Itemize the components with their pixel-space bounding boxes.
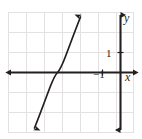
y-axis-label: y — [124, 12, 129, 24]
coordinate-plane-svg — [0, 0, 142, 139]
x-axis-label: x — [125, 71, 130, 83]
y-tick-label-one: 1 — [106, 48, 112, 59]
graph-figure: y x 1 −1 — [0, 0, 142, 139]
x-tick-label-negative-one: −1 — [93, 69, 105, 80]
